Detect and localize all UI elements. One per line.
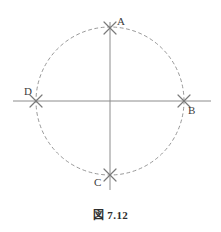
point-label-b: B bbox=[188, 105, 196, 116]
point-label-d: D bbox=[24, 86, 32, 97]
figure-caption: 図 7.12 bbox=[0, 206, 221, 222]
geometry-diagram bbox=[0, 0, 221, 232]
point-label-c: C bbox=[94, 177, 102, 188]
point-label-a: A bbox=[117, 16, 125, 27]
figure-container: A B C D 図 7.12 bbox=[0, 0, 221, 232]
